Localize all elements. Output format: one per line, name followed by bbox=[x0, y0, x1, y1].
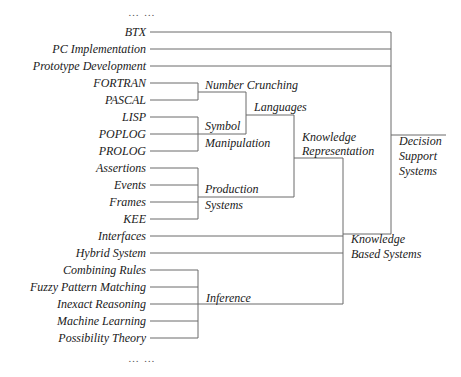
leaf-kee: KEE bbox=[123, 212, 146, 226]
leaf-poplog: POPLOG bbox=[99, 127, 146, 141]
leaf-assertions: Assertions bbox=[96, 161, 146, 175]
leaf-interfaces: Interfaces bbox=[98, 229, 146, 243]
leaf-lisp: LISP bbox=[122, 110, 146, 124]
leaf-btx: BTX bbox=[125, 25, 146, 39]
node-inference: Inference bbox=[206, 291, 251, 305]
node-knowledge-based-systems: Knowledge Based Systems bbox=[351, 232, 421, 261]
leaf-machine-learning: Machine Learning bbox=[57, 314, 146, 328]
leaf-inexact-reasoning: Inexact Reasoning bbox=[57, 297, 146, 311]
leaf-hybrid-system: Hybrid System bbox=[76, 246, 146, 260]
node-number-crunching: Number Crunching bbox=[205, 78, 298, 92]
node-production-systems: Production Systems bbox=[205, 182, 259, 212]
leaf-prototype-development: Prototype Development bbox=[33, 59, 146, 73]
leaf-pc-implementation: PC Implementation bbox=[52, 42, 146, 56]
leaf-frames: Frames bbox=[109, 195, 146, 209]
leaf-prolog: PROLOG bbox=[99, 144, 146, 158]
leaf-fuzzy-pattern-matching: Fuzzy Pattern Matching bbox=[30, 280, 146, 294]
leaf-fortran: FORTRAN bbox=[93, 76, 146, 90]
leaf-events: Events bbox=[114, 178, 146, 192]
node-knowledge-representation: Knowledge Representation bbox=[302, 130, 374, 158]
node-languages: Languages bbox=[254, 100, 307, 114]
bottom-ellipsis: … … bbox=[128, 352, 156, 364]
leaf-combining-rules: Combining Rules bbox=[63, 263, 146, 277]
node-symbol-manipulation: Symbol Manipulation bbox=[205, 119, 270, 150]
top-ellipsis: … … bbox=[128, 6, 156, 18]
hierarchy-diagram: … … BTX PC Implementation Prototype Deve… bbox=[0, 0, 461, 377]
leaf-possibility-theory: Possibility Theory bbox=[58, 331, 146, 345]
node-decision-support-systems: Decision Support Systems bbox=[399, 134, 442, 178]
leaf-pascal: PASCAL bbox=[105, 93, 146, 107]
